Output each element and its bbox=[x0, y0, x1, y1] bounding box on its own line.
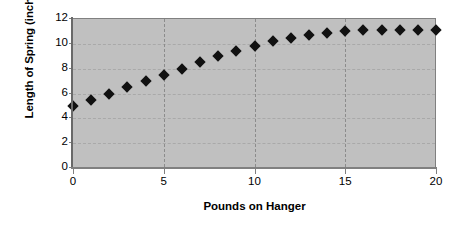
x-tick-label-10: 10 bbox=[248, 176, 261, 188]
y-axis-title: Length of Spring (inches) bbox=[23, 0, 35, 126]
data-point bbox=[158, 69, 169, 80]
x-tick-mark-0 bbox=[73, 169, 74, 174]
data-point bbox=[231, 46, 242, 57]
data-point bbox=[249, 41, 260, 52]
data-point bbox=[358, 25, 369, 36]
y-tick-label-4: 4 bbox=[48, 112, 68, 124]
x-tick-label-5: 5 bbox=[161, 176, 167, 188]
data-point bbox=[85, 94, 96, 105]
y-tick-label-10: 10 bbox=[48, 37, 68, 49]
y-tick-label-8: 8 bbox=[48, 62, 68, 74]
data-point bbox=[140, 75, 151, 86]
data-point bbox=[394, 25, 405, 36]
x-axis-title: Pounds on Hanger bbox=[73, 200, 436, 212]
data-point bbox=[122, 82, 133, 93]
y-tick-label-12: 12 bbox=[48, 12, 68, 24]
x-tick-mark-5 bbox=[164, 169, 165, 174]
x-tick-label-0: 0 bbox=[70, 176, 76, 188]
y-axis-tick-labels: 024681012 bbox=[48, 18, 68, 167]
gridline-x-5 bbox=[164, 19, 165, 167]
x-axis-tick-marks bbox=[73, 169, 436, 174]
data-point bbox=[412, 25, 423, 36]
data-point bbox=[376, 25, 387, 36]
x-tick-label-15: 15 bbox=[339, 176, 352, 188]
spring-length-scatter-chart: Length of Spring (inches) 024681012 0510… bbox=[0, 0, 464, 226]
y-tick-label-0: 0 bbox=[48, 161, 68, 173]
gridline-x-15 bbox=[345, 19, 346, 167]
x-tick-mark-15 bbox=[345, 169, 346, 174]
data-point bbox=[194, 57, 205, 68]
y-axis-line bbox=[71, 17, 73, 168]
data-point bbox=[285, 32, 296, 43]
data-point bbox=[213, 51, 224, 62]
x-tick-mark-20 bbox=[436, 169, 437, 174]
x-tick-mark-10 bbox=[255, 169, 256, 174]
x-tick-label-20: 20 bbox=[430, 176, 443, 188]
data-point bbox=[340, 26, 351, 37]
data-point bbox=[104, 88, 115, 99]
plot-area bbox=[73, 18, 436, 167]
data-point bbox=[267, 36, 278, 47]
data-point bbox=[321, 27, 332, 38]
data-point bbox=[430, 25, 441, 36]
y-tick-label-6: 6 bbox=[48, 87, 68, 99]
data-point bbox=[176, 63, 187, 74]
y-tick-label-2: 2 bbox=[48, 136, 68, 148]
x-axis-tick-labels: 05101520 bbox=[73, 176, 436, 192]
data-point bbox=[303, 29, 314, 40]
